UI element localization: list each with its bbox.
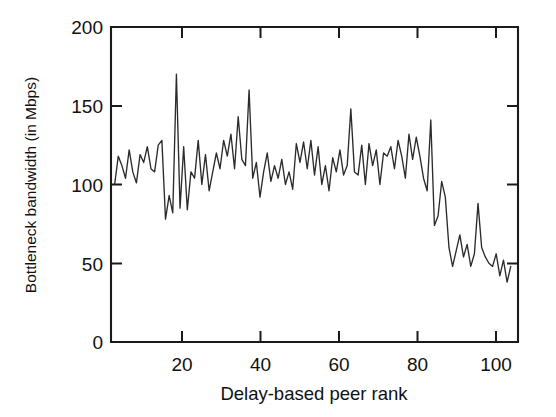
x-tick-label: 100 [480,354,512,375]
bottleneck-bandwidth-line-chart: 0 50 100 150 200 20 40 60 80 100 Delay-b… [0,0,556,417]
x-tick-label: 20 [171,354,192,375]
x-tick-label: 80 [407,354,428,375]
x-tick-label: 60 [328,354,349,375]
y-tick-label: 50 [82,254,103,275]
chart-figure: 0 50 100 150 200 20 40 60 80 100 Delay-b… [0,0,556,417]
y-tick-label: 100 [71,175,103,196]
y-tick-label: 150 [71,96,103,117]
plot-frame [111,27,518,342]
x-axis-title: Delay-based peer rank [220,383,408,404]
y-tick-label: 200 [71,17,103,38]
x-tick-labels: 20 40 60 80 100 [171,354,511,375]
y-tick-labels: 0 50 100 150 200 [71,17,103,353]
x-axis-ticks [182,27,496,342]
x-tick-label: 40 [250,354,271,375]
y-axis-title: Bottleneck bandwidth (in Mbps) [22,77,39,293]
series-line-bottleneck-bandwidth [115,74,511,282]
y-axis-ticks [111,27,518,342]
y-tick-label: 0 [92,332,103,353]
